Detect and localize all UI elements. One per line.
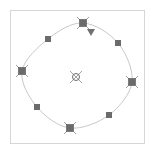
bounding-frame bbox=[11, 11, 145, 144]
midpoint-handle-top-left[interactable] bbox=[45, 36, 51, 42]
edit-handles bbox=[16, 17, 138, 134]
midpoint-handle-bottom-left[interactable] bbox=[34, 104, 40, 110]
diagram-canvas bbox=[0, 0, 163, 146]
vertex-handle-square-icon bbox=[80, 20, 87, 27]
triangle-marker-icon[interactable] bbox=[87, 29, 95, 36]
center-handle[interactable] bbox=[70, 71, 82, 83]
midpoint-handle-top-right[interactable] bbox=[115, 40, 121, 46]
vertex-handle-square-icon bbox=[19, 68, 26, 75]
vertex-handle-square-icon bbox=[129, 79, 136, 86]
midpoint-handle-bottom-right[interactable] bbox=[106, 112, 112, 118]
vertex-handle-square-icon bbox=[67, 125, 74, 132]
